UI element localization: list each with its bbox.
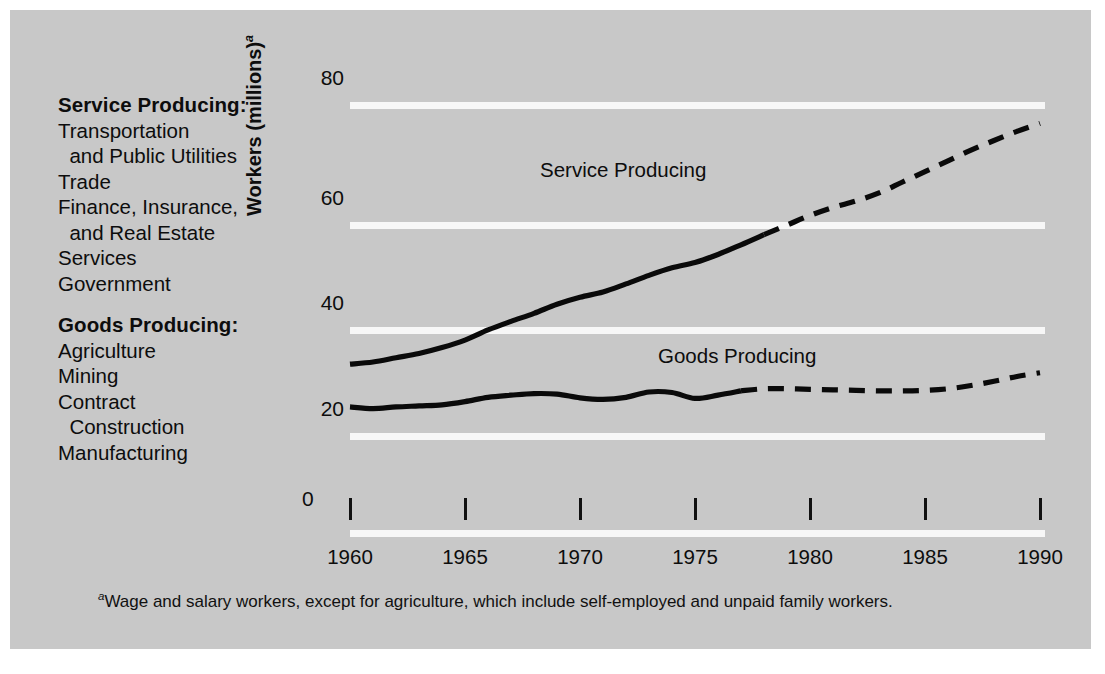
goods-producing-line-dashed (741, 373, 1040, 391)
legend-item-real-estate: and Real Estate (58, 220, 298, 246)
y-axis-title-superscript: a (242, 35, 256, 42)
service-producing-line-dashed (764, 123, 1040, 234)
service-producing-line-solid (350, 235, 764, 364)
footnote: aWage and salary workers, except for agr… (98, 590, 1058, 612)
legend-item-construction: Construction (58, 414, 298, 440)
series-lines (310, 50, 1070, 550)
legend-heading-goods: Goods Producing: (58, 312, 298, 338)
legend-item-contract: Contract (58, 389, 298, 415)
goods-producing-line-solid (350, 391, 741, 409)
chart-panel: Service Producing: Transportation and Pu… (10, 10, 1091, 649)
y-axis-title: Workers (millions)a (242, 0, 266, 216)
figure-root: Service Producing: Transportation and Pu… (0, 0, 1105, 674)
y-axis-title-text: Workers (millions) (243, 42, 265, 216)
legend-item-mining: Mining (58, 363, 298, 389)
legend-spacer (58, 296, 298, 312)
legend-item-agriculture: Agriculture (58, 338, 298, 364)
legend-item-services: Services (58, 245, 298, 271)
legend-item-government: Government (58, 271, 298, 297)
plot-area: 80 60 40 20 0 1960 1965 1970 1975 1980 1… (310, 50, 1070, 550)
legend-item-manufacturing: Manufacturing (58, 440, 298, 466)
footnote-text: Wage and salary workers, except for agri… (104, 592, 892, 611)
